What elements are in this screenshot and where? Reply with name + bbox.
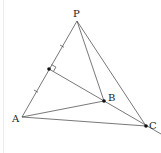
label-B: B <box>108 92 115 103</box>
segment-PB <box>77 21 104 101</box>
point-B <box>102 99 106 103</box>
point-M <box>47 67 51 71</box>
diagram-canvas: P A B C <box>0 0 161 153</box>
geometry-diagram: P A B C <box>0 0 161 153</box>
segment-AB <box>22 101 104 117</box>
label-C: C <box>149 120 157 131</box>
segment-PC <box>77 21 146 126</box>
label-P: P <box>73 8 80 19</box>
segment-AC <box>22 117 146 126</box>
label-A: A <box>11 113 20 124</box>
point-C <box>144 124 148 128</box>
